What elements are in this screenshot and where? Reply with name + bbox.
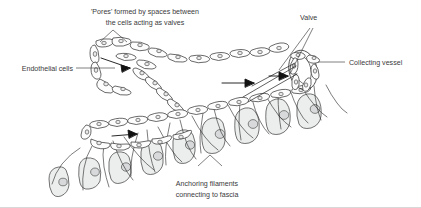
anchoring-label-line1: Anchoring filaments <box>176 180 239 188</box>
endothelial-cell <box>96 39 114 47</box>
endothelial-cell <box>109 118 128 126</box>
endothelial-cell <box>168 54 187 62</box>
endothelial-chain-inner-upper <box>116 53 184 112</box>
endothelial-cell <box>269 43 289 52</box>
pores-label-line1: 'Pores' formed by spaces between <box>91 8 199 16</box>
endothelial-cell <box>116 53 136 60</box>
tissue-cell <box>235 108 259 144</box>
endothelial-cell <box>229 97 249 105</box>
endothelial-cell <box>188 106 208 115</box>
tissue-cell <box>202 118 226 154</box>
endothelial-cell <box>137 60 156 69</box>
endothelial-cell <box>148 113 168 122</box>
tissue-cell <box>49 167 69 197</box>
endothelial-cell <box>128 116 148 124</box>
endothelial-cell <box>91 62 101 79</box>
valve-label: Valve <box>300 14 317 22</box>
endothelial-cell <box>311 64 319 79</box>
endothelial-cell <box>230 50 250 58</box>
flow-arrow-icon <box>222 79 254 87</box>
tissue-cell <box>109 152 132 184</box>
endothelial-cell <box>112 86 131 95</box>
pores-label-line2: the cells acting as valves <box>106 19 185 27</box>
lymphatic-capillary-figure: 'Pores' formed by spaces between the cel… <box>0 0 421 208</box>
endothelial-cell <box>152 136 172 144</box>
endothelial-cell <box>90 121 109 129</box>
endothelial-cell <box>97 79 114 93</box>
tissue-cell <box>79 158 101 189</box>
endothelial-cell <box>189 55 210 63</box>
endothelial-cell <box>111 143 131 150</box>
endothelial-cell <box>81 125 91 139</box>
v-pointer-anchoring <box>198 155 222 166</box>
endothelial-cell <box>130 42 149 51</box>
leader-line-valve-b <box>290 28 313 74</box>
tissue-cell <box>297 94 321 129</box>
endothelial-cells-label: Endothelial cells <box>22 65 74 73</box>
endothelial-cell <box>168 110 188 119</box>
endothelial-cell <box>210 53 230 61</box>
endothelial-cell <box>112 37 131 46</box>
endothelial-cell <box>271 89 291 97</box>
endothelial-cell <box>250 93 270 101</box>
collecting-vessel-label: Collecting vessel <box>349 59 403 67</box>
endothelial-cell <box>250 48 270 57</box>
endothelial-cell <box>90 45 99 63</box>
anchoring-label-line2: connecting to fascia <box>176 191 239 199</box>
endothelial-cell <box>91 139 111 149</box>
flow-arrow-icon <box>112 130 137 138</box>
endothelial-cell <box>208 101 228 109</box>
endothelial-cell <box>148 48 167 57</box>
flow-arrow-icon <box>269 72 288 80</box>
diagram-canvas: 'Pores' formed by spaces between the cel… <box>0 0 421 208</box>
